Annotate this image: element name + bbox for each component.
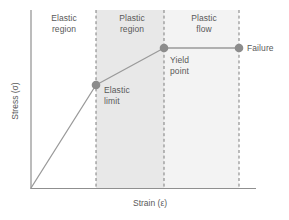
x-axis-label: Strain (ε): [90, 198, 210, 208]
marker-yield-point: [160, 44, 169, 53]
region-label-plastic-flow: Plastic flow: [176, 13, 232, 34]
y-axis-label: Stress (σ): [10, 66, 20, 136]
marker-elastic-limit: [92, 81, 101, 90]
point-label-elastic-limit: Elastic limit: [104, 85, 156, 106]
region-fill-plastic-flow: [164, 10, 239, 188]
region-label-elastic-region: Elastic region: [36, 13, 92, 34]
marker-failure: [235, 44, 244, 53]
point-label-failure: Failure: [247, 43, 289, 54]
stress-strain-diagram: Stress (σ) Strain (ε) Elastic region Pla…: [0, 0, 289, 220]
point-label-yield-point: Yield point: [170, 55, 214, 76]
region-label-plastic-region: Plastic region: [104, 13, 160, 34]
region-fill-elastic: [31, 10, 96, 188]
